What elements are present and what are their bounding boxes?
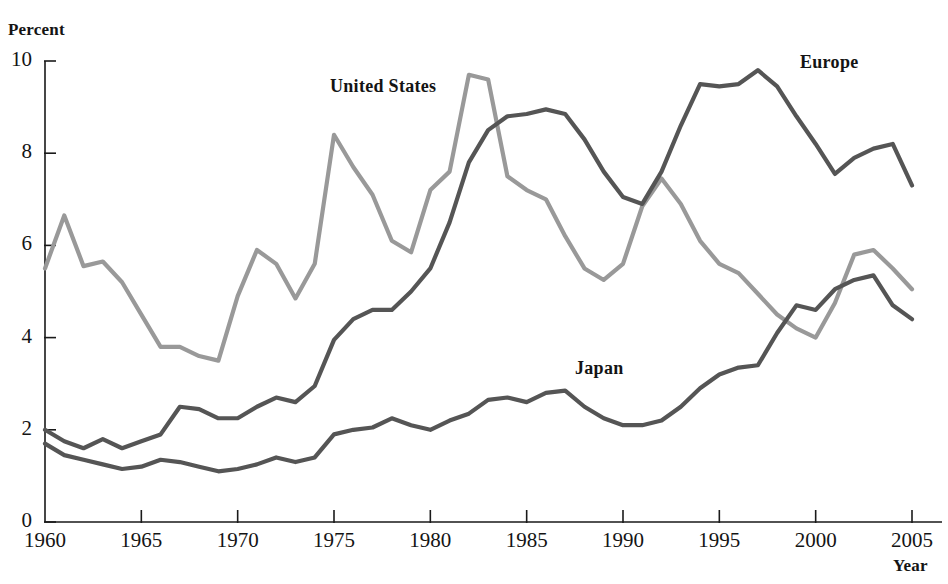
series-line-japan [45,275,912,471]
x-tick-label: 1965 [101,528,181,553]
x-tick-label: 1980 [390,528,470,553]
data-series-lines [45,70,912,471]
unemployment-rate-line-chart: Percent Year United States Europe Japan … [0,0,948,584]
series-line-europe [45,70,912,448]
series-label-europe: Europe [800,52,858,73]
x-tick-label: 1970 [198,528,278,553]
x-tick-label: 1990 [583,528,663,553]
x-tick-label: 1975 [294,528,374,553]
x-tick-label: 2000 [776,528,856,553]
x-tick-label: 2005 [872,528,948,553]
y-tick-label: 2 [2,416,32,441]
series-label-japan: Japan [575,358,624,379]
axis-ticks [44,61,912,523]
x-axis-title: Year [893,556,928,576]
y-tick-label: 6 [2,231,32,256]
series-line-united-states [45,75,912,361]
x-tick-label: 1985 [487,528,567,553]
series-label-united-states: United States [330,76,436,97]
x-tick-label: 1995 [679,528,759,553]
y-tick-label: 4 [2,324,32,349]
plot-area [0,0,948,584]
y-tick-label: 8 [2,139,32,164]
y-axis-title: Percent [8,20,65,40]
y-tick-label: 10 [2,47,32,72]
x-tick-label: 1960 [5,528,85,553]
